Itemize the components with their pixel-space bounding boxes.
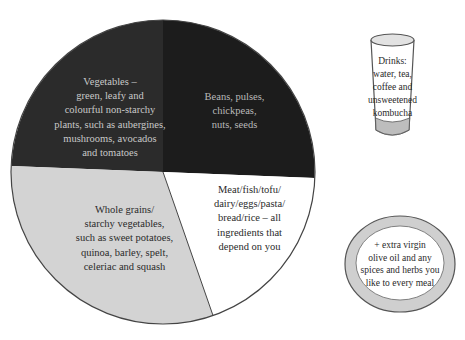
side-plate-line-3: spices and herbs you (352, 264, 448, 277)
protein-line-3: bread/rice – all (202, 211, 297, 225)
protein-line-1: Meat/fish/tofu/ (202, 183, 297, 197)
beans-label: Beans, pulses, chickpeas, nuts, seeds (187, 90, 282, 133)
plate-diagram (0, 0, 465, 340)
vegetables-label: Vegetables – green, leafy and colourful … (40, 75, 180, 160)
vegetables-line-1: Vegetables – (40, 75, 180, 89)
drinks-line-5: kombucha (360, 107, 425, 120)
beans-line-2: chickpeas, (187, 104, 282, 118)
drinks-label: Drinks: water, tea, coffee and unsweeten… (360, 55, 425, 120)
drinks-line-3: coffee and (360, 81, 425, 94)
beans-line-1: Beans, pulses, (187, 90, 282, 104)
side-plate-line-2: olive oil and any (352, 252, 448, 265)
drinks-line-1: Drinks: (360, 55, 425, 68)
vegetables-line-2: green, leafy and (40, 89, 180, 103)
grains-line-3: such as sweet potatoes, (62, 231, 187, 245)
grains-line-5: celeriac and squash (62, 260, 187, 274)
drinks-line-2: water, tea, (360, 68, 425, 81)
side-plate-line-1: + extra virgin (352, 239, 448, 252)
grains-line-2: starchy vegetables, (62, 217, 187, 231)
grains-line-1: Whole grains/ (62, 203, 187, 217)
protein-line-4: ingredients that (202, 226, 297, 240)
protein-label: Meat/fish/tofu/ dairy/eggs/pasta/ bread/… (202, 183, 297, 254)
vegetables-line-5: mushrooms, avocados (40, 132, 180, 146)
whole-grains-label: Whole grains/ starchy vegetables, such a… (62, 203, 187, 274)
side-plate-label: + extra virgin olive oil and any spices … (352, 239, 448, 289)
vegetables-line-3: colourful non-starchy (40, 103, 180, 117)
vegetables-line-6: and tomatoes (40, 146, 180, 160)
side-plate-line-4: like to every meal (352, 277, 448, 290)
protein-line-5: depend on you (202, 240, 297, 254)
grains-line-4: quinoa, barley, spelt, (62, 246, 187, 260)
drinks-line-4: unsweetened (360, 94, 425, 107)
beans-line-3: nuts, seeds (187, 118, 282, 132)
vegetables-line-4: plants, such as aubergines, (40, 118, 180, 132)
protein-line-2: dairy/eggs/pasta/ (202, 197, 297, 211)
